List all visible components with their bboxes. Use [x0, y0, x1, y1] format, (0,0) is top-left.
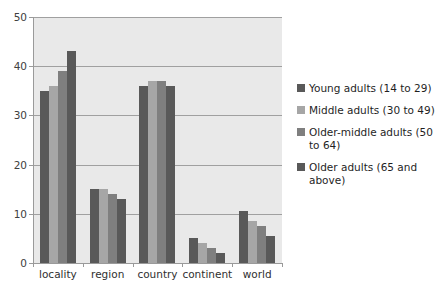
x-tick-mark-3 — [182, 263, 183, 267]
legend-swatch-icon-2 — [297, 106, 305, 114]
bar-groups — [33, 17, 282, 263]
bar-region-series-2 — [99, 189, 108, 263]
bar-group-locality — [33, 17, 83, 263]
x-tick-label-world: world — [243, 268, 272, 280]
x-tick-mark-2 — [133, 263, 134, 267]
legend-label-2: Middle adults (30 to 49) — [309, 104, 435, 117]
legend-label-4: Older adults (65 and above) — [309, 161, 445, 187]
y-tick-label-0: 0 — [20, 258, 27, 269]
bar-group-region — [83, 17, 133, 263]
legend-swatch-icon-1 — [297, 84, 305, 92]
x-tick-label-region: region — [91, 268, 124, 280]
y-tick-label-50: 50 — [14, 12, 27, 23]
legend-label-1: Young adults (14 to 29) — [309, 82, 431, 95]
legend-label-3: Older-middle adults (50 to 64) — [309, 126, 445, 152]
y-tick-label-20: 20 — [14, 160, 27, 171]
bar-world-series-1 — [239, 211, 248, 263]
x-tick-mark-end — [282, 263, 283, 267]
bar-locality-series-3 — [58, 71, 67, 263]
x-tick-mark-0 — [33, 263, 34, 267]
legend-item-1[interactable]: Young adults (14 to 29) — [297, 82, 445, 95]
bar-country-series-1 — [139, 86, 148, 263]
y-tick-label-40: 40 — [14, 61, 27, 72]
bar-chart: 01020304050 localityregioncountrycontine… — [0, 0, 448, 298]
bar-region-series-1 — [90, 189, 99, 263]
legend-item-2[interactable]: Middle adults (30 to 49) — [297, 104, 445, 117]
x-tick-mark-4 — [232, 263, 233, 267]
chart-legend: Young adults (14 to 29)Middle adults (30… — [297, 82, 445, 196]
bar-locality-series-2 — [49, 86, 58, 263]
bar-continent-series-4 — [216, 253, 225, 263]
bar-country-series-4 — [166, 86, 175, 263]
legend-item-3[interactable]: Older-middle adults (50 to 64) — [297, 126, 445, 152]
x-tick-label-continent: continent — [182, 268, 232, 280]
bar-continent-series-1 — [189, 238, 198, 263]
bar-group-world — [232, 17, 282, 263]
x-axis-line — [33, 263, 283, 264]
bar-world-series-2 — [248, 221, 257, 263]
y-axis-tick-labels: 01020304050 — [0, 0, 27, 298]
bar-group-continent — [182, 17, 232, 263]
legend-swatch-icon-4 — [297, 163, 305, 171]
bar-locality-series-4 — [67, 51, 76, 263]
x-axis-tick-labels: localityregioncountrycontinentworld — [33, 268, 282, 288]
bar-world-series-3 — [257, 226, 266, 263]
y-tick-label-10: 10 — [14, 209, 27, 220]
bar-locality-series-1 — [40, 91, 49, 263]
bar-region-series-3 — [108, 194, 117, 263]
x-tick-label-country: country — [137, 268, 177, 280]
bar-group-country — [133, 17, 183, 263]
bar-world-series-4 — [266, 236, 275, 263]
legend-swatch-icon-3 — [297, 128, 305, 136]
x-tick-mark-1 — [83, 263, 84, 267]
bar-continent-series-3 — [207, 248, 216, 263]
y-tick-label-30: 30 — [14, 110, 27, 121]
bar-country-series-3 — [157, 81, 166, 263]
bar-region-series-4 — [117, 199, 126, 263]
bar-country-series-2 — [148, 81, 157, 263]
bar-continent-series-2 — [198, 243, 207, 263]
x-tick-label-locality: locality — [39, 268, 77, 280]
legend-item-4[interactable]: Older adults (65 and above) — [297, 161, 445, 187]
